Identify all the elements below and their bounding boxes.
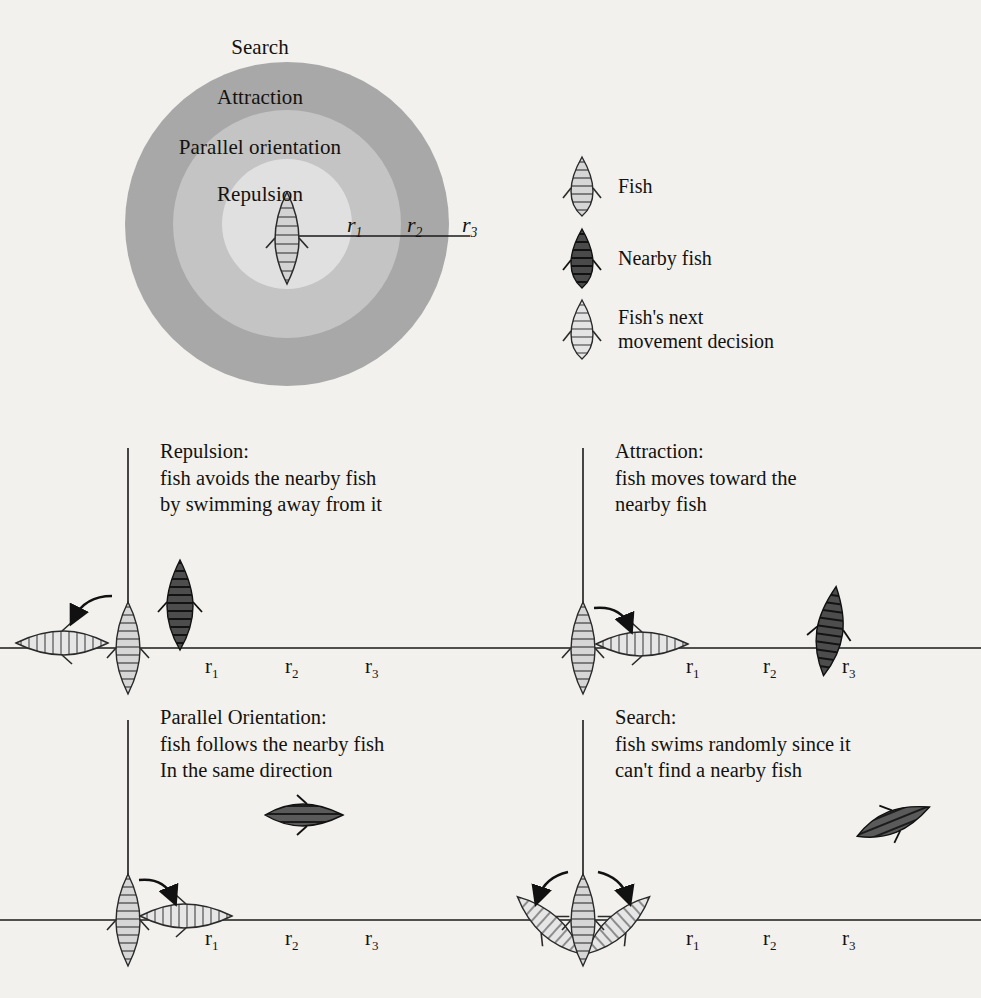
decision-fish-icon <box>16 622 108 664</box>
panel-parallel-tick-r2: r2 <box>285 926 299 954</box>
panel-search-tick-r3: r3 <box>842 926 856 954</box>
nearby-fish-icon <box>850 788 937 854</box>
figure-root: Search Attraction Parallel orientation R… <box>0 0 981 998</box>
legend-item-nearby-fish: Nearby fish <box>560 227 712 289</box>
panel-search: Search: fish swims randomly since it can… <box>490 690 981 990</box>
radius-label-r1: r1 <box>347 212 362 241</box>
panel-attraction-graphic <box>490 432 981 690</box>
zone-label-search: Search <box>0 36 520 59</box>
panel-search-graphic <box>490 690 981 990</box>
legend-label-nearby-fish: Nearby fish <box>618 246 712 270</box>
fish-striped-light-icon <box>560 155 604 217</box>
concentric-zone-diagram: Search Attraction Parallel orientation R… <box>0 0 520 420</box>
nearby-fish-icon <box>158 560 202 650</box>
turn-arrow-left-icon <box>538 872 568 898</box>
legend-item-fish: Fish <box>560 155 652 217</box>
zone-circles <box>0 0 520 420</box>
panel-repulsion-tick-r1: r1 <box>205 654 219 682</box>
legend-label-next-decision: Fish's next movement decision <box>618 305 774 354</box>
legend-item-next-decision: Fish's next movement decision <box>560 298 774 360</box>
panel-search-tick-r1: r1 <box>686 926 700 954</box>
nearby-fish-icon <box>265 795 343 835</box>
decision-fish-icon <box>596 623 688 665</box>
turn-arrow-right-icon <box>598 872 628 898</box>
turn-arrow-icon <box>139 880 173 898</box>
panel-repulsion-tick-r3: r3 <box>365 654 379 682</box>
panel-search-tick-r2: r2 <box>763 926 777 954</box>
fish-pale-icon <box>560 298 604 360</box>
zone-label-attraction: Attraction <box>0 86 520 109</box>
fish-dark-icon <box>560 227 604 289</box>
zone-label-repulsion: Repulsion <box>0 183 520 206</box>
panel-parallel-graphic <box>0 690 490 990</box>
panel-repulsion: Repulsion: fish avoids the nearby fish b… <box>0 432 490 690</box>
radius-label-r2: r2 <box>407 212 422 241</box>
panel-parallel-orientation: Parallel Orientation: fish follows the n… <box>0 690 490 990</box>
panel-repulsion-graphic <box>0 432 490 690</box>
turn-arrow-icon <box>594 608 629 626</box>
panel-attraction: Attraction: fish moves toward the nearby… <box>490 432 981 690</box>
legend-label-fish: Fish <box>618 174 652 198</box>
panel-repulsion-tick-r2: r2 <box>285 654 299 682</box>
panel-parallel-tick-r1: r1 <box>205 926 219 954</box>
panel-parallel-tick-r3: r3 <box>365 926 379 954</box>
zone-label-parallel: Parallel orientation <box>0 136 520 159</box>
panel-attraction-tick-r3: r3 <box>842 654 856 682</box>
turn-arrow-icon <box>74 596 112 618</box>
panel-attraction-tick-r1: r1 <box>686 654 700 682</box>
radius-label-r3: r3 <box>462 212 477 241</box>
legend: Fish Nearby fish <box>560 155 960 375</box>
panel-attraction-tick-r2: r2 <box>763 654 777 682</box>
